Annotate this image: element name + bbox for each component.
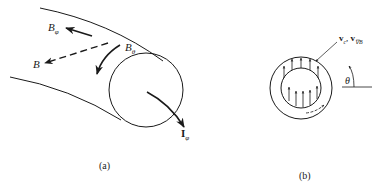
tube-bottom-boundary — [10, 77, 121, 120]
caption-b: (b) — [299, 171, 311, 181]
label-i-phi: Iφ — [181, 128, 189, 142]
label-b-phi: Bφ — [48, 22, 59, 36]
inner-circle — [281, 68, 321, 108]
label-b: B — [33, 59, 40, 70]
b-theta-curved-arrow — [97, 45, 120, 74]
b-total-dashed-arrow — [45, 43, 108, 63]
label-theta: θ — [345, 76, 350, 86]
drift-arrows-top — [284, 58, 318, 78]
tube-cross-section-circle — [109, 53, 183, 127]
caption-a: (a) — [99, 161, 110, 171]
label-velocity: vc, v∇B — [339, 34, 363, 46]
b-phi-arrow — [66, 28, 92, 36]
panel-b — [270, 42, 372, 119]
velocity-leader-line — [316, 42, 337, 61]
label-b-theta: Bθ — [125, 42, 135, 56]
